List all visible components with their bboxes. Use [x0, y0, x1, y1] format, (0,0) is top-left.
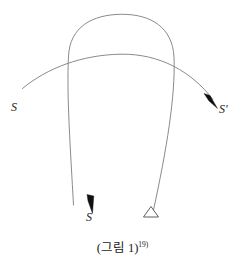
shallow-arc-curve — [23, 54, 213, 99]
diagram-canvas — [0, 0, 245, 280]
figure-caption: (그림 1)19) — [0, 242, 245, 255]
label-target-s-prime: S' — [219, 103, 228, 115]
label-bottom-s: S — [86, 211, 92, 223]
tall-arch-curve — [68, 14, 174, 210]
caption-footnote-marker: 19) — [138, 240, 148, 249]
caption-text: (그림 1) — [97, 241, 139, 255]
arrowhead-right-icon — [204, 94, 218, 109]
figure-container: S S' S (그림 1)19) — [0, 0, 245, 280]
triangle-marker-icon — [144, 207, 159, 218]
label-source-s: S — [11, 101, 17, 113]
